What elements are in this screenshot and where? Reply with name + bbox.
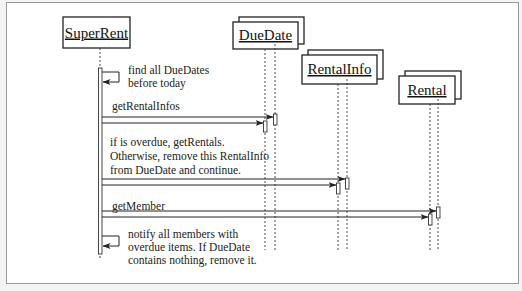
svg-text:getRentalInfos: getRentalInfos bbox=[112, 100, 180, 113]
svg-text:Otherwise, remove this RentalI: Otherwise, remove this RentalInfo bbox=[110, 150, 269, 163]
svg-text:from DueDate and continue.: from DueDate and continue. bbox=[110, 164, 241, 176]
message-self-notify-members: notify all members with overdue items. I… bbox=[102, 228, 257, 267]
activation-duedate-a bbox=[264, 121, 268, 132]
svg-text:overdue items. If DueDate: overdue items. If DueDate bbox=[128, 241, 250, 253]
object-label-rentalinfo: RentalInfo bbox=[307, 61, 371, 77]
object-rentalinfo[interactable]: RentalInfo bbox=[302, 50, 383, 84]
svg-text:before today: before today bbox=[128, 77, 186, 90]
object-label-rental: Rental bbox=[407, 82, 446, 98]
svg-text:find all DueDates: find all DueDates bbox=[128, 64, 210, 76]
svg-text:if is overdue, getRentals.: if is overdue, getRentals. bbox=[110, 136, 225, 149]
object-superrent[interactable]: SuperRent bbox=[63, 17, 130, 48]
activation-rental-a bbox=[429, 214, 433, 225]
object-label-duedate: DueDate bbox=[239, 27, 293, 43]
message-get-member: getMember bbox=[102, 200, 436, 217]
activation-rental-b bbox=[437, 207, 441, 218]
activation-superrent bbox=[99, 68, 103, 254]
object-duedate[interactable]: DueDate bbox=[233, 17, 304, 49]
message-self-find-duedates: find all DueDates before today bbox=[102, 64, 210, 90]
activation-rentalinfo-a bbox=[337, 183, 341, 194]
sequence-diagram: SuperRent DueDate RentalInfo Rental find… bbox=[0, 0, 522, 291]
object-label-superrent: SuperRent bbox=[65, 25, 129, 41]
message-get-rentals: if is overdue, getRentals. Otherwise, re… bbox=[102, 136, 345, 185]
activation-rentalinfo-b bbox=[346, 178, 350, 189]
svg-text:notify all members with: notify all members with bbox=[128, 228, 238, 241]
activation-duedate-b bbox=[274, 114, 278, 125]
object-rental[interactable]: Rental bbox=[399, 71, 461, 104]
svg-text:contains nothing, remove it.: contains nothing, remove it. bbox=[128, 254, 257, 267]
message-get-rental-infos: getRentalInfos bbox=[102, 100, 273, 123]
